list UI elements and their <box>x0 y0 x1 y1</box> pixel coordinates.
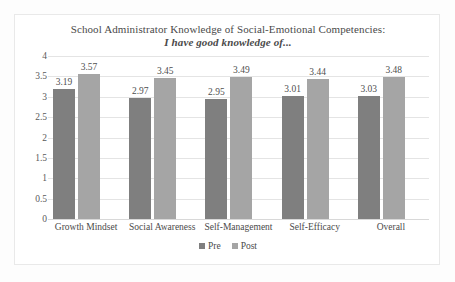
legend-label: Pre <box>208 241 221 251</box>
legend-swatch-icon <box>232 243 238 249</box>
x-axis-category-label: Self-Management <box>200 222 276 232</box>
bars-layer: 3.193.572.973.452.953.493.013.443.033.48 <box>48 56 429 219</box>
y-axis-tick-label: 3.5 <box>17 71 47 81</box>
y-axis-tick-label: 3 <box>17 92 47 102</box>
legend-item-pre[interactable]: Pre <box>199 241 221 251</box>
bar-value-label: 3.03 <box>360 84 377 94</box>
bar-value-label: 3.57 <box>81 62 98 72</box>
bar-pre[interactable]: 2.95 <box>205 99 227 219</box>
chart-frame: School Administrator Knowledge of Social… <box>14 14 440 265</box>
x-axis-category-label: Overall <box>353 222 429 232</box>
bar-value-label: 2.97 <box>132 86 149 96</box>
chart-figure: School Administrator Knowledge of Social… <box>0 0 455 282</box>
y-axis-tick-label: 2.5 <box>17 112 47 122</box>
bar-group: 3.033.48 <box>353 56 429 219</box>
bar-value-label: 3.48 <box>385 65 402 75</box>
bar-group: 2.953.49 <box>200 56 276 219</box>
bar-post[interactable]: 3.48 <box>383 77 405 219</box>
legend-swatch-icon <box>199 243 205 249</box>
bar-post[interactable]: 3.45 <box>154 78 176 219</box>
y-axis-tick-label: 2 <box>17 133 47 143</box>
bar-pre[interactable]: 3.19 <box>53 89 75 219</box>
axes-box: 43.532.521.510.50 3.193.572.973.452.953.… <box>48 56 429 219</box>
bar-value-label: 3.01 <box>284 84 301 94</box>
bar-value-label: 3.45 <box>157 66 174 76</box>
x-axis-category-label: Social Awareness <box>124 222 200 232</box>
legend-label: Post <box>241 241 257 251</box>
bar-pre[interactable]: 3.03 <box>358 96 380 219</box>
bar-post[interactable]: 3.49 <box>230 77 252 219</box>
bar-value-label: 3.49 <box>233 65 250 75</box>
bar-value-label: 2.95 <box>208 87 225 97</box>
bar-group: 2.973.45 <box>124 56 200 219</box>
legend-item-post[interactable]: Post <box>232 241 257 251</box>
y-axis-tick-label: 0 <box>17 214 47 224</box>
chart-legend: PrePost <box>15 241 441 251</box>
x-axis-category-label: Self-Efficacy <box>277 222 353 232</box>
y-axis-tick-label: 4 <box>17 51 47 61</box>
bar-value-label: 3.44 <box>309 67 326 77</box>
bar-value-label: 3.19 <box>56 77 73 87</box>
bar-group: 3.013.44 <box>277 56 353 219</box>
chart-title-line-1: School Administrator Knowledge of Social… <box>15 23 441 36</box>
plot-area: 43.532.521.510.50 3.193.572.973.452.953.… <box>48 42 429 232</box>
bar-pre[interactable]: 3.01 <box>282 96 304 219</box>
x-axis-category-label: Growth Mindset <box>48 222 124 232</box>
y-axis-tick-label: 1 <box>17 173 47 183</box>
bar-post[interactable]: 3.44 <box>307 79 329 219</box>
gridline <box>48 219 429 220</box>
bar-post[interactable]: 3.57 <box>78 74 100 219</box>
y-axis-tick-label: 0.5 <box>17 194 47 204</box>
bar-pre[interactable]: 2.97 <box>129 98 151 219</box>
bar-group: 3.193.57 <box>48 56 124 219</box>
y-axis-tick-label: 1.5 <box>17 153 47 163</box>
